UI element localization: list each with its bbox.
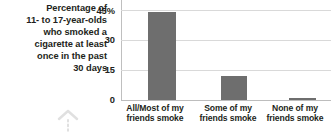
gridline-45 bbox=[121, 10, 331, 11]
x-axis-label-none: None of my friends smoke bbox=[255, 103, 335, 124]
chevron-up-icon bbox=[56, 108, 80, 134]
y-axis-tick-label: 15 bbox=[79, 65, 115, 75]
y-axis-tick-label: 45% bbox=[79, 6, 115, 16]
x-axis-label-line: friends smoke bbox=[255, 113, 335, 123]
caption-line: once in the past bbox=[0, 50, 107, 62]
x-axis-label-line: All/Most of my bbox=[114, 103, 196, 113]
bar-chart-figure: Percentage of 11- to 17-year-olds who sm… bbox=[0, 0, 335, 135]
bar-none-friends-smoke bbox=[289, 98, 316, 100]
bar-some-friends-smoke bbox=[221, 76, 247, 100]
y-axis-tick-label: 0 bbox=[79, 95, 115, 105]
y-axis-tick-label: 30 bbox=[79, 35, 115, 45]
y-axis-line bbox=[121, 0, 122, 101]
x-axis-baseline bbox=[121, 100, 331, 101]
bar-all-most-friends-smoke bbox=[148, 12, 176, 100]
x-axis-label-line: None of my bbox=[255, 103, 335, 113]
x-axis-label-all-most: All/Most of my friends smoke bbox=[114, 103, 196, 124]
x-axis-label-line: friends smoke bbox=[114, 113, 196, 123]
plot-area bbox=[121, 0, 331, 101]
